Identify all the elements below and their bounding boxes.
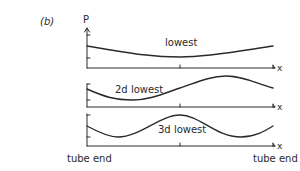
x-axis-label: x <box>277 141 283 151</box>
panel-1-axes <box>85 28 276 68</box>
mode-label-lowest: lowest <box>165 37 197 48</box>
panel-label: (b) <box>40 16 54 27</box>
standing-wave-diagram: (b) P lowest x 2d lowest x 3d lowest x t… <box>0 0 300 171</box>
x-axis-label: x <box>277 102 283 112</box>
mode-label-3d-lowest: 3d lowest <box>158 124 206 135</box>
right-tube-end-label: tube end <box>253 153 298 164</box>
y-axis-label: P <box>83 14 89 25</box>
x-axis-label: x <box>277 63 283 73</box>
left-tube-end-label: tube end <box>67 153 112 164</box>
mode-label-2d-lowest: 2d lowest <box>115 84 163 95</box>
